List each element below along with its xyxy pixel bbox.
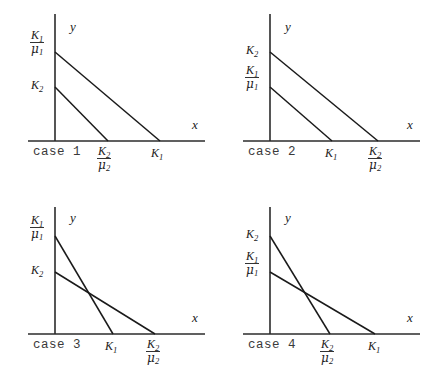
y-intercept-label-k2: K2 <box>246 44 258 56</box>
y-axis-label: y <box>285 211 291 224</box>
panel-case-4-plot <box>212 193 425 386</box>
y-intercept-label-k1-over-mu1: K1 μ1 <box>245 64 259 90</box>
x-intercept-label-k1: K1 <box>105 340 117 352</box>
line-steep <box>55 236 113 334</box>
x-axis-label: x <box>192 311 198 324</box>
x-axis-label: x <box>407 311 413 324</box>
panel-case-4: y x K2 K1 μ1 case 4 K2 μ2 K1 <box>212 193 425 386</box>
y-intercept-label-k2: K2 <box>246 228 258 240</box>
y-axis-label: y <box>285 20 291 33</box>
x-intercept-label-k2-over-mu2: K2 μ2 <box>97 145 111 171</box>
x-intercept-label-k2-over-mu2: K2 μ2 <box>146 338 160 364</box>
y-intercept-label-k1-over-mu1: K1 μ1 <box>30 29 44 55</box>
four-case-line-diagram: y x K1 μ1 K2 case 1 K2 μ2 K1 y x K2 K1 μ… <box>0 0 425 386</box>
y-intercept-label-k2: K2 <box>31 264 43 276</box>
x-intercept-label-k1: K1 <box>325 147 337 159</box>
case-label: case 1 <box>33 146 81 159</box>
panel-case-2-plot <box>212 0 425 193</box>
case-label: case 4 <box>248 339 296 352</box>
line-shallow <box>270 272 375 334</box>
x-intercept-label-k2-over-mu2: K2 μ2 <box>368 145 382 171</box>
line-lower <box>55 87 108 141</box>
x-axis-label: x <box>192 118 198 131</box>
line-steep <box>270 236 330 334</box>
y-axis-label: y <box>70 211 76 224</box>
panel-case-1: y x K1 μ1 K2 case 1 K2 μ2 K1 <box>0 0 213 193</box>
x-intercept-label-k1: K1 <box>151 147 163 159</box>
case-label: case 3 <box>33 339 81 352</box>
line-shallow <box>55 272 155 334</box>
line-upper <box>270 52 378 141</box>
x-axis-label: x <box>407 118 413 131</box>
y-intercept-label-k2: K2 <box>31 79 43 91</box>
y-axis-label: y <box>70 20 76 33</box>
panel-case-3: y x K1 μ1 K2 case 3 K1 K2 μ2 <box>0 193 213 386</box>
case-label: case 2 <box>248 146 296 159</box>
x-intercept-label-k1: K1 <box>368 340 380 352</box>
x-intercept-label-k2-over-mu2: K2 μ2 <box>320 338 334 364</box>
y-intercept-label-k1-over-mu1: K1 μ1 <box>245 250 259 276</box>
panel-case-2: y x K2 K1 μ1 case 2 K1 K2 μ2 <box>212 0 425 193</box>
y-intercept-label-k1-over-mu1: K1 μ1 <box>30 214 44 240</box>
line-upper <box>55 52 160 141</box>
